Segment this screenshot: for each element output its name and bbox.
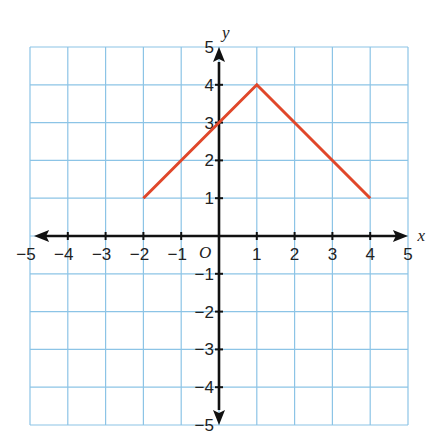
x-tick-label: 3 [328,245,337,264]
y-tick-label: 1 [205,189,214,208]
y-tick-label: −2 [195,303,214,322]
x-tick-label: 4 [365,245,374,264]
y-tick-label: 4 [205,76,214,95]
x-tick-label: −2 [130,245,149,264]
y-tick-label: 2 [205,151,214,170]
origin-label: O [199,243,211,262]
x-tick-label: −1 [168,245,187,264]
x-tick-label: 2 [290,245,299,264]
y-tick-label: 5 [205,38,214,57]
y-tick-label: −3 [195,340,214,359]
x-axis-label: x [416,226,425,245]
coordinate-plane: −5−4−3−2−11234554321−1−2−3−4−5xyO [0,0,448,446]
x-tick-label: 5 [403,245,412,264]
y-tick-label: −4 [195,378,214,397]
y-tick-label: −5 [195,416,214,435]
x-tick-label: 1 [252,245,261,264]
x-tick-label: −5 [16,245,35,264]
x-tick-label: −3 [92,245,111,264]
y-axis-label: y [220,23,230,42]
y-tick-label: −1 [195,265,214,284]
x-tick-label: −4 [54,245,73,264]
